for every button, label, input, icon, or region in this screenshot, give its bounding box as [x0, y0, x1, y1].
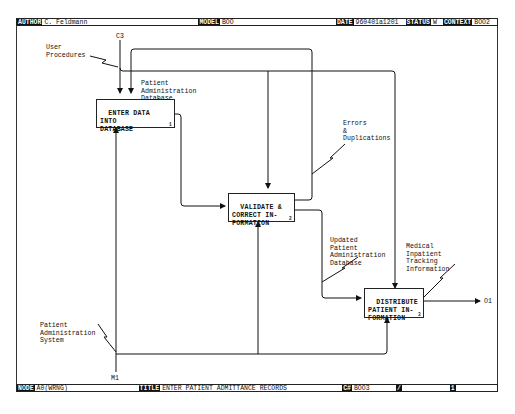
activity-box-distribute[interactable]: DISTRIBUTE PATIENT IN- FORMATION 3 [364, 288, 424, 318]
footer-spacer [402, 385, 450, 391]
label-patient-admin-db: Patient Administration Database [141, 80, 196, 103]
label-updated-db: Updated Patient Administration Database [330, 237, 385, 267]
node-value: A0(WRNG) [35, 385, 139, 391]
mechanism-arrow-to-distribute [116, 318, 387, 354]
activity-box-validate[interactable]: VALIDATE & CORRECT IN- FORMATION 2 [228, 193, 295, 222]
label-user-procedures: User Procedures [46, 44, 86, 59]
page-mark-2: 1 [450, 385, 456, 391]
label-m1: M1 [111, 375, 119, 383]
squiggle-patient-system [98, 324, 116, 352]
activity-box-enter-data[interactable]: ENTER DATA INTO DATABASE 1 [96, 99, 175, 128]
activity-number: 3 [418, 312, 421, 317]
c-number-value: BOO3 [352, 385, 396, 391]
activity-number: 1 [169, 122, 172, 127]
label-medical-tracking: Medical Inpatient Tracking Information [406, 243, 450, 273]
node-label: NODE [17, 385, 35, 391]
title-value: ENTER PATIENT ADMITTANCE RECORDS [160, 385, 342, 391]
c-number-label: C# [342, 385, 352, 391]
label-c3: C3 [116, 33, 124, 41]
title-label: TITLE [139, 385, 161, 391]
squiggle-user-procedures [90, 56, 118, 67]
squiggle-errors [312, 144, 345, 174]
footer-bar: NODE A0(WRNG) TITLE ENTER PATIENT ADMITT… [16, 384, 498, 392]
label-errors-duplications: Errors & Duplications [343, 120, 390, 143]
activity-number: 2 [289, 216, 292, 221]
label-patient-admin-system: Patient Administration System [40, 322, 95, 345]
db-output-arrow [174, 114, 225, 206]
label-o1: O1 [484, 298, 492, 306]
